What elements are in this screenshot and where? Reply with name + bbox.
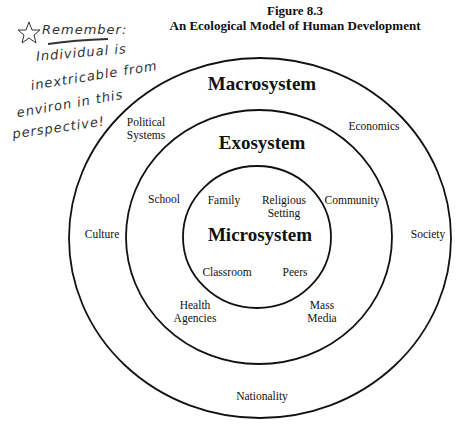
label-family: Family bbox=[204, 194, 244, 207]
label-political-systems: Political Systems bbox=[118, 116, 174, 142]
handwritten-note: Remember: Individual is inextricable fro… bbox=[0, 0, 1, 1]
label-economics: Economics bbox=[343, 120, 405, 133]
macrosystem-title: Macrosystem bbox=[200, 74, 324, 94]
label-school: School bbox=[144, 193, 184, 206]
exosystem-title: Exosystem bbox=[210, 133, 314, 153]
label-society: Society bbox=[405, 228, 451, 241]
label-community: Community bbox=[321, 194, 383, 207]
label-religious-setting: Religious Setting bbox=[256, 194, 312, 220]
ecological-rings bbox=[0, 0, 464, 430]
label-peers: Peers bbox=[277, 266, 313, 279]
label-mass-media: Mass Media bbox=[302, 299, 342, 325]
label-nationality: Nationality bbox=[232, 390, 292, 403]
microsystem-title: Microsystem bbox=[200, 225, 320, 245]
label-health-agencies: Health Agencies bbox=[170, 299, 220, 325]
star-icon bbox=[18, 22, 40, 43]
label-culture: Culture bbox=[80, 228, 124, 241]
note-line-1: Remember: bbox=[42, 22, 127, 38]
label-classroom: Classroom bbox=[198, 266, 256, 279]
